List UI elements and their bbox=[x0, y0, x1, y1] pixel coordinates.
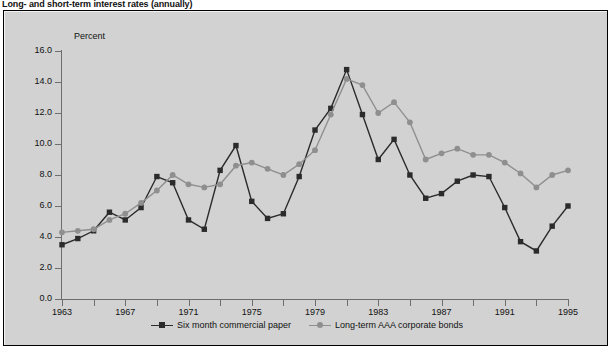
series-marker bbox=[107, 210, 112, 215]
series-marker bbox=[280, 172, 286, 178]
series-marker bbox=[360, 112, 365, 117]
chart-legend: Six month commercial paperLong-term AAA … bbox=[0, 320, 614, 330]
series-marker bbox=[138, 200, 144, 206]
legend-label: Six month commercial paper bbox=[177, 320, 291, 330]
series-marker bbox=[344, 76, 350, 82]
series-marker bbox=[391, 137, 396, 142]
series-marker bbox=[534, 248, 539, 253]
series-marker bbox=[407, 172, 412, 177]
series-marker bbox=[423, 157, 429, 163]
series-marker bbox=[344, 67, 349, 72]
series-marker bbox=[439, 150, 445, 156]
series-marker bbox=[154, 188, 160, 194]
series-marker bbox=[249, 199, 254, 204]
series-marker bbox=[186, 217, 191, 222]
series-marker bbox=[170, 172, 176, 178]
series-marker bbox=[296, 174, 301, 179]
series-marker bbox=[533, 185, 539, 191]
series-marker bbox=[217, 181, 223, 187]
series-marker bbox=[549, 223, 554, 228]
series-marker bbox=[265, 166, 271, 172]
series-line bbox=[62, 70, 568, 251]
series-marker bbox=[455, 179, 460, 184]
series-marker bbox=[407, 119, 413, 125]
series-marker bbox=[154, 174, 159, 179]
series-marker bbox=[123, 217, 128, 222]
series-marker bbox=[470, 172, 475, 177]
series-marker bbox=[201, 185, 207, 191]
series-marker bbox=[249, 160, 255, 166]
series-marker bbox=[59, 229, 65, 235]
series-marker bbox=[233, 143, 238, 148]
series-marker bbox=[518, 239, 523, 244]
series-marker bbox=[59, 242, 64, 247]
series-marker bbox=[565, 203, 570, 208]
legend-item[interactable]: Six month commercial paper bbox=[151, 320, 291, 330]
series-marker bbox=[265, 216, 270, 221]
series-marker bbox=[502, 205, 507, 210]
series-marker bbox=[376, 157, 381, 162]
legend-square-marker-icon bbox=[151, 321, 173, 330]
series-marker bbox=[454, 146, 460, 152]
series-marker bbox=[217, 168, 222, 173]
series-marker bbox=[502, 160, 508, 166]
series-marker bbox=[91, 226, 97, 232]
series-marker bbox=[170, 180, 175, 185]
series-marker bbox=[486, 152, 492, 158]
series-marker bbox=[486, 174, 491, 179]
series-marker bbox=[565, 167, 571, 173]
series-marker bbox=[375, 110, 381, 116]
series-marker bbox=[549, 172, 555, 178]
series-marker bbox=[296, 161, 302, 167]
legend-label: Long-term AAA corporate bonds bbox=[335, 320, 463, 330]
series-marker bbox=[360, 82, 366, 88]
series-marker bbox=[423, 196, 428, 201]
series-marker bbox=[470, 152, 476, 158]
series-marker bbox=[281, 211, 286, 216]
series-marker bbox=[439, 191, 444, 196]
series-marker bbox=[202, 227, 207, 232]
legend-item[interactable]: Long-term AAA corporate bonds bbox=[309, 320, 463, 330]
series-marker bbox=[107, 217, 113, 223]
series-marker bbox=[233, 163, 239, 169]
series-marker bbox=[186, 181, 192, 187]
figure-root: Long- and short-term interest rates (ann… bbox=[0, 0, 614, 350]
series-marker bbox=[75, 228, 81, 234]
series-marker bbox=[328, 112, 334, 118]
series-marker bbox=[391, 99, 397, 105]
series-marker bbox=[312, 127, 317, 132]
series-marker bbox=[75, 236, 80, 241]
series-marker bbox=[312, 147, 318, 153]
series-marker bbox=[122, 211, 128, 217]
series-marker bbox=[518, 171, 524, 177]
legend-circle-marker-icon bbox=[309, 321, 331, 330]
series-plot-area bbox=[0, 0, 614, 350]
